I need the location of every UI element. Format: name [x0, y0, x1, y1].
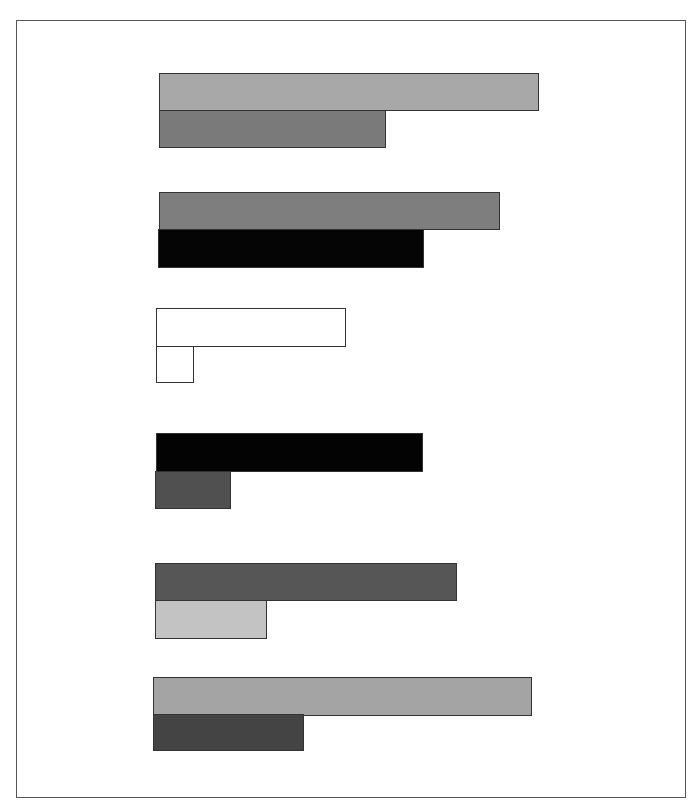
bar-group-3-bottom — [156, 346, 194, 383]
bar-group-4-bottom — [155, 471, 231, 509]
bar-group-5-top — [155, 563, 457, 601]
bar-group-6-bottom — [153, 714, 304, 751]
bar-group-3-top — [156, 308, 346, 347]
bar-group-1-top — [159, 73, 539, 111]
bar-group-6-top — [153, 677, 532, 716]
bar-group-5-bottom — [155, 600, 267, 639]
bar-group-2-top — [159, 192, 500, 230]
bar-group-1-bottom — [159, 110, 386, 148]
bar-group-4-top — [156, 433, 423, 472]
bar-group-2-bottom — [158, 229, 424, 268]
